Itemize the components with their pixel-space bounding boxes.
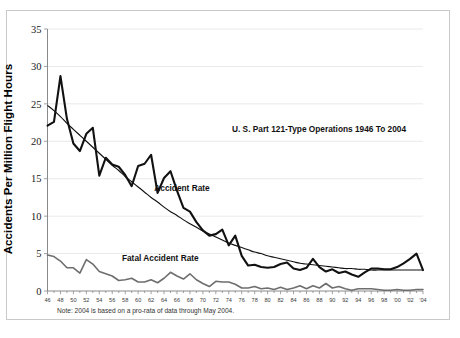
y-axis-tick-label: 10 [31, 211, 42, 222]
x-axis-tick-label: 50 [70, 297, 76, 303]
x-axis-tick-label: 76 [239, 297, 245, 303]
x-axis-tick-label: 66 [174, 297, 180, 303]
x-axis-tick-label: 60 [135, 297, 141, 303]
x-axis-tick-label: 48 [57, 297, 63, 303]
y-axis-tick-label: 35 [31, 24, 42, 35]
x-axis-tick-label: '00 [393, 297, 400, 303]
x-axis-tick-label: 86 [303, 297, 309, 303]
x-axis-tick-label: 62 [148, 297, 154, 303]
x-axis-tick-label: 72 [213, 297, 219, 303]
x-axis-tick-label: 52 [83, 297, 89, 303]
x-axis-tick-label: 90 [329, 297, 335, 303]
fatal-accident-rate-label: Fatal Accident Rate [122, 253, 199, 263]
x-axis-tick-label: '02 [406, 297, 413, 303]
x-axis-tick-label: 58 [122, 297, 128, 303]
x-axis-tick-label: 98 [381, 297, 387, 303]
x-axis-tick-label: 68 [187, 297, 193, 303]
x-axis-tick-label: 82 [277, 297, 283, 303]
y-axis-ticks-group: 05101520253035 [31, 24, 48, 297]
accident-rate-line-chart: 05101520253035 4648505254565860626466687… [0, 0, 460, 338]
y-axis-tick-label: 5 [36, 248, 41, 259]
x-axis-tick-label: 84 [290, 297, 296, 303]
footnote-text: Note: 2004 is based on a pro-rata of dat… [57, 307, 234, 315]
y-axis-tick-label: 0 [36, 286, 41, 297]
x-axis-tick-label: 92 [342, 297, 348, 303]
chart-plot-container: 05101520253035 4648505254565860626466687… [0, 0, 460, 338]
x-axis-tick-label: 64 [161, 297, 167, 303]
x-axis-tick-label: '04 [419, 297, 426, 303]
accident-rate-series [48, 76, 424, 277]
x-axis-tick-label: 54 [96, 297, 102, 303]
x-axis-tick-label: 96 [368, 297, 374, 303]
x-axis-tick-label: 88 [316, 297, 322, 303]
x-axis-tick-label: 56 [109, 297, 115, 303]
x-axis-tick-label: 78 [252, 297, 258, 303]
accident-rate-label: Accident Rate [154, 183, 210, 193]
x-axis-tick-label: 46 [44, 297, 50, 303]
y-axis-tick-label: 25 [31, 99, 42, 110]
x-axis-tick-label: 80 [265, 297, 271, 303]
y-axis-tick-label: 20 [31, 136, 42, 147]
gridlines-group [48, 29, 424, 254]
x-axis-tick-label: 70 [200, 297, 206, 303]
y-axis-tick-label: 15 [31, 173, 42, 184]
x-axis-tick-label: 94 [355, 297, 361, 303]
x-axis-tick-label: 74 [226, 297, 232, 303]
y-axis-tick-label: 30 [31, 61, 42, 72]
fatal-accident-rate-series [48, 255, 424, 290]
x-axis-ticks-group: 4648505254565860626466687072747678808284… [44, 291, 426, 303]
chart-title-annotation: U. S. Part 121-Type Operations 1946 To 2… [232, 124, 406, 134]
